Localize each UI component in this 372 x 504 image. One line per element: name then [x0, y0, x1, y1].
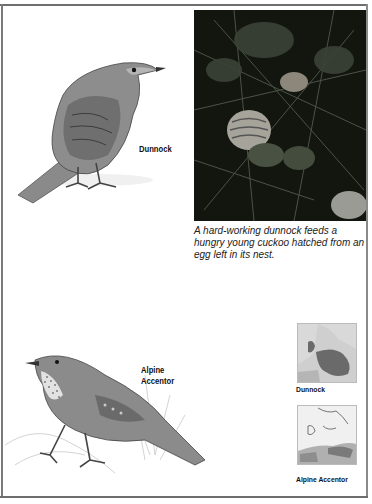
alpine-accentor-label-line1: Alpine — [141, 365, 164, 376]
europe-map-dunnock — [298, 324, 356, 382]
alpine-accentor-map-label: Alpine Accentor — [296, 475, 348, 484]
dunnock-range-map — [297, 323, 357, 383]
alpine-accentor-range-map — [297, 405, 357, 465]
europe-map-alpine-accentor — [298, 406, 356, 464]
dunnock-map-label: Dunnock — [296, 385, 325, 394]
page-border-right — [366, 4, 368, 498]
page-border-bottom — [0, 496, 368, 498]
page-border-left — [1, 4, 3, 498]
page-border-top — [0, 4, 368, 6]
dunnock-cuckoo-photo — [194, 10, 366, 221]
dunnock-label: Dunnock — [139, 144, 172, 155]
alpine-accentor-label-line2: Accentor — [141, 376, 174, 387]
alpine-accentor-illustration — [5, 345, 205, 475]
photo-image — [194, 10, 366, 221]
dunnock-illustration — [8, 55, 173, 205]
photo-caption: A hard-working dunnock feeds a hungry yo… — [194, 225, 366, 261]
